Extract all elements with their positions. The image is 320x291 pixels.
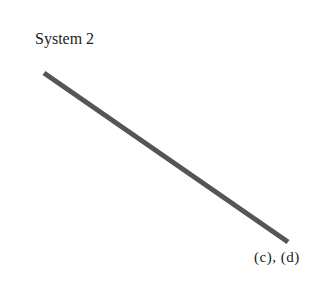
system-line: [44, 73, 288, 242]
diagram-canvas: [0, 0, 320, 291]
end-label: (c), (d): [254, 249, 300, 266]
